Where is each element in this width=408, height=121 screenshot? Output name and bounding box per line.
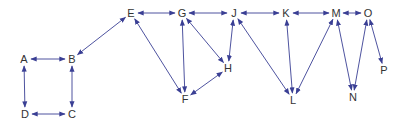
node-g: G — [178, 7, 187, 19]
edges-layer — [24, 13, 382, 114]
node-h: H — [224, 62, 232, 74]
edge-k-l — [287, 20, 293, 93]
node-e: E — [127, 7, 134, 19]
node-d: D — [21, 108, 29, 120]
edge-j-l — [238, 19, 289, 94]
edge-f-h — [191, 72, 223, 95]
nodes-layer: ABCDEGJKMOHFLNP — [20, 7, 387, 120]
graph-diagram: ABCDEGJKMOHFLNP — [0, 0, 408, 121]
node-j: J — [231, 7, 237, 19]
node-m: M — [331, 7, 340, 19]
edge-m-n — [337, 20, 351, 90]
edge-m-l — [296, 19, 333, 93]
node-n: N — [349, 91, 357, 103]
node-l: L — [290, 94, 296, 106]
edge-b-e — [78, 17, 126, 54]
edge-o-p — [370, 20, 382, 64]
edge-g-h — [187, 18, 224, 62]
node-k: K — [282, 7, 290, 19]
node-f: F — [182, 93, 189, 105]
edge-e-f — [135, 19, 182, 93]
edge-g-f — [182, 20, 185, 92]
node-a: A — [20, 53, 28, 65]
node-p: P — [380, 64, 387, 76]
node-o: O — [364, 7, 373, 19]
node-b: B — [68, 53, 75, 65]
node-c: C — [68, 108, 76, 120]
edge-a-d — [24, 66, 25, 107]
edge-j-h — [229, 20, 233, 61]
edge-o-n — [354, 20, 367, 90]
